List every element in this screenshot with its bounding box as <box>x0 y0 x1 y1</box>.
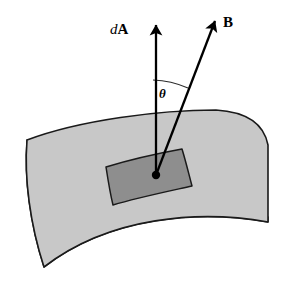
flux-diagram-figure: dA B θ <box>0 0 289 285</box>
angle-label: θ <box>159 87 166 100</box>
diagram-canvas <box>0 0 289 285</box>
area-vector-label: dA <box>110 22 128 37</box>
area-vector-symbol: A <box>118 21 129 37</box>
origin-dot <box>152 171 160 179</box>
area-vector-differential: d <box>110 21 118 37</box>
field-vector-label: B <box>223 15 233 30</box>
